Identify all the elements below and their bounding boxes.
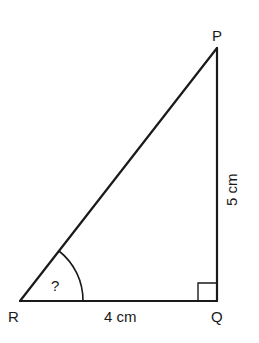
triangle bbox=[20, 48, 217, 301]
angle-r-arc bbox=[59, 251, 83, 301]
vertex-label-p: P bbox=[212, 27, 222, 44]
vertex-label-r: R bbox=[8, 308, 19, 325]
angle-label-r: ? bbox=[51, 277, 59, 294]
right-angle-marker bbox=[198, 283, 217, 301]
side-label-rq: 4 cm bbox=[104, 308, 137, 325]
triangle-diagram: P R Q 4 cm 5 cm ? bbox=[0, 0, 259, 343]
side-label-qp: 5 cm bbox=[223, 173, 240, 206]
vertex-label-q: Q bbox=[211, 308, 223, 325]
side-rp bbox=[20, 48, 217, 301]
